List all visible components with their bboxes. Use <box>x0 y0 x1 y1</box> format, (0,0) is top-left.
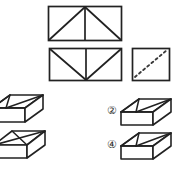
reference-box-fan-pattern <box>0 95 43 122</box>
top-panel-group <box>49 7 170 81</box>
option-label-4[interactable]: ④ <box>107 139 117 150</box>
rectangle-with-valley-fold <box>50 49 122 81</box>
option-box-2[interactable] <box>121 99 171 125</box>
option-4-front-face <box>121 146 153 159</box>
option-label-2[interactable]: ② <box>107 105 117 116</box>
figure-canvas <box>0 0 179 170</box>
bottom-panel-group <box>0 95 171 159</box>
rectangle-with-peak-fold <box>49 7 122 41</box>
option-2-front-face <box>121 112 153 125</box>
square-with-dashed-diagonal <box>133 49 170 81</box>
ref-box-2-front-face <box>0 145 27 158</box>
option-box-4[interactable] <box>121 133 171 159</box>
ref-box-1-front-face <box>0 108 25 122</box>
spatial-reasoning-figure: ② ④ Two rectangles with fold lines and a… <box>0 0 179 170</box>
reference-box-x-pattern <box>0 131 45 158</box>
